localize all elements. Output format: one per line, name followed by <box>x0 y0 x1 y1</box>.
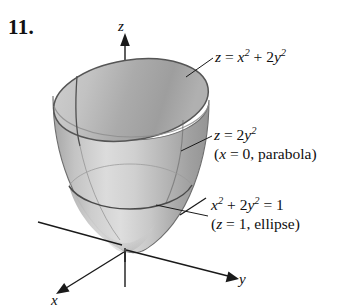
y-axis-arrowhead <box>226 272 239 283</box>
surface-eq-term2-coefficient: 2 <box>266 48 274 65</box>
ellipse-cond-close-paren: ) <box>295 215 300 232</box>
parabola-cond-word: parabola <box>258 145 311 162</box>
ellipse-eq-base1: x <box>211 196 218 213</box>
surface-eq-term2-exponent: 2 <box>281 47 286 58</box>
ellipse-condition-line: (z = 1, ellipse) <box>211 215 300 234</box>
surface-eq-term2-base: y <box>274 48 281 65</box>
parabola-cond-close-paren: ) <box>311 145 316 162</box>
x-axis <box>66 252 124 288</box>
y-axis <box>126 250 228 276</box>
ellipse-equation-line: x2 + 2y2 = 1 <box>211 196 300 215</box>
x-axis-label: x <box>51 292 58 308</box>
parabola-eq-exponent: 2 <box>251 125 256 136</box>
parabola-cond-equals: = 0, <box>226 145 258 162</box>
ellipse-eq-plus: + <box>223 196 240 213</box>
annotation-ellipse-cross-section: x2 + 2y2 = 1 (z = 1, ellipse) <box>211 196 300 234</box>
x-axis-arrowhead <box>56 283 70 294</box>
annotation-parabola-trace: z = 2y2 (x = 0, parabola) <box>214 126 317 164</box>
ellipse-eq-equals-one: = 1 <box>260 196 284 213</box>
surface-eq-plus: + <box>250 48 267 65</box>
figure-container: 11. <box>0 0 359 308</box>
surface-eq-equals: = <box>221 48 238 65</box>
y-axis-label: y <box>239 271 246 288</box>
ellipse-cond-equals: = 1, <box>222 215 254 232</box>
ellipse-cond-word: ellipse <box>254 215 294 232</box>
parabola-condition-line: (x = 0, parabola) <box>214 145 317 164</box>
parabola-equation-line: z = 2y2 <box>214 126 317 145</box>
z-axis-label: z <box>118 18 124 35</box>
parabola-eq-equals: = <box>220 126 237 143</box>
annotation-surface-equation: z = x2 + 2y2 <box>215 48 286 67</box>
